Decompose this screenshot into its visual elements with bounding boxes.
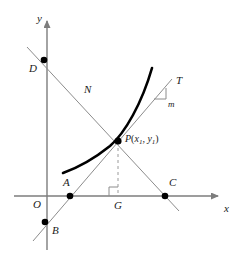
p-close-paren: )	[155, 133, 158, 144]
point-marker-C	[162, 193, 169, 200]
p-x-subscript: 1	[139, 138, 143, 146]
right-angle-at-G	[109, 187, 118, 196]
x-axis-label: x	[224, 203, 229, 214]
point-label-B: B	[52, 225, 59, 236]
origin-label: O	[33, 199, 41, 210]
tangent-line-label-T: T	[176, 75, 182, 86]
p-y-subscript: 1	[152, 138, 156, 146]
point-label-D: D	[29, 63, 37, 74]
geometry-diagram-svg	[0, 0, 237, 255]
point-p-coordinates-label: P(x1, y1)	[125, 134, 159, 144]
normal-line-label-N: N	[84, 84, 91, 95]
normal-line-N	[27, 47, 179, 211]
figure-root: y x O D A B C G N T m P(x1, y1)	[0, 0, 237, 255]
tangent-line-T	[33, 79, 172, 241]
point-marker-P	[114, 137, 121, 144]
point-marker-D	[41, 57, 48, 64]
slope-label-m: m	[168, 100, 175, 109]
point-label-A: A	[63, 177, 70, 188]
point-label-G: G	[114, 200, 122, 211]
function-curve	[63, 68, 152, 173]
point-marker-A	[67, 193, 74, 200]
point-marker-B	[42, 219, 49, 226]
point-label-C: C	[169, 177, 176, 188]
y-axis-label: y	[37, 13, 42, 24]
